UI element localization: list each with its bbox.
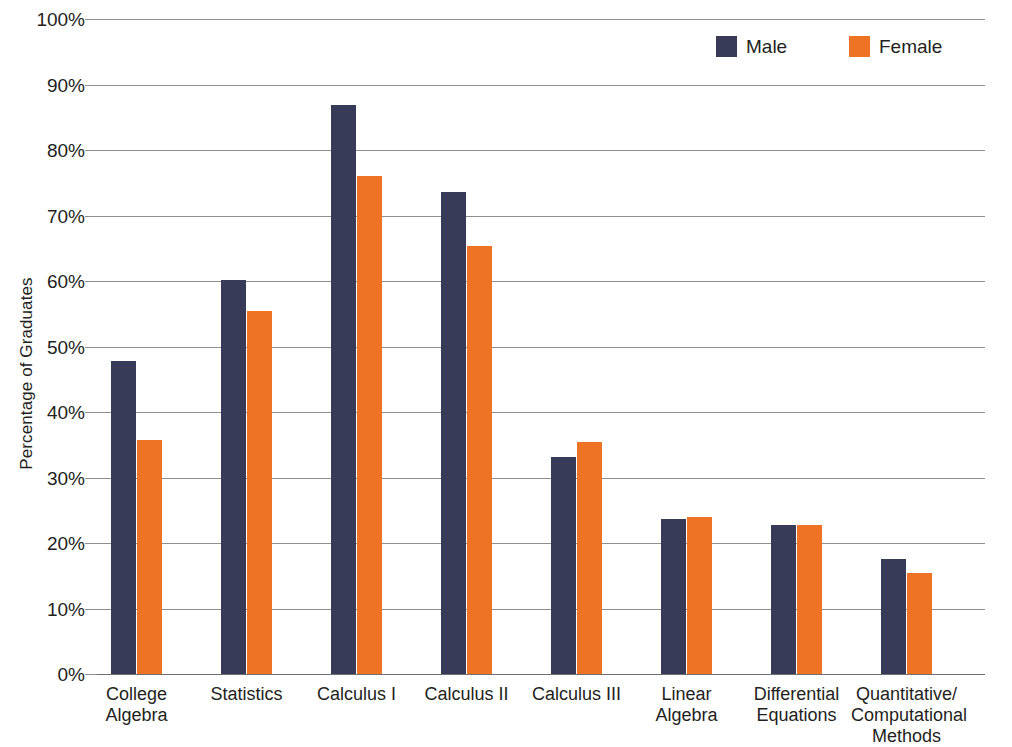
x-axis-label-5: Linear Algebra bbox=[631, 684, 742, 726]
y-axis-tick-label: 0% bbox=[5, 665, 85, 684]
bar-male-0 bbox=[111, 361, 136, 674]
y-axis-tick-label: 40% bbox=[5, 403, 85, 422]
bar-male-5 bbox=[661, 519, 686, 674]
x-axis-label-0: College Algebra bbox=[81, 684, 192, 726]
y-axis-tick-mark bbox=[85, 478, 97, 479]
y-axis-tick-mark bbox=[85, 543, 97, 544]
legend-label-male: Male bbox=[746, 37, 787, 56]
x-axis-label-4: Calculus III bbox=[521, 684, 632, 705]
y-axis-tick-mark bbox=[85, 347, 97, 348]
bar-male-4 bbox=[551, 457, 576, 674]
legend-item-female: Female bbox=[849, 36, 942, 57]
y-axis-tick-mark bbox=[85, 412, 97, 413]
bar-female-3 bbox=[467, 246, 492, 674]
bar-male-2 bbox=[331, 105, 356, 674]
y-axis-tick-label: 60% bbox=[5, 272, 85, 291]
y-axis-tick-label: 50% bbox=[5, 337, 85, 356]
gridline bbox=[97, 674, 985, 675]
y-axis-tick-mark bbox=[85, 150, 97, 151]
y-axis-tick-label: 80% bbox=[5, 141, 85, 160]
y-axis-tick-mark bbox=[85, 85, 97, 86]
bar-female-1 bbox=[247, 311, 272, 674]
x-axis-label-7: Quantitative/ Computational Methods bbox=[851, 684, 962, 747]
gridline bbox=[97, 216, 985, 217]
bar-female-0 bbox=[137, 440, 162, 674]
y-axis-tick-mark bbox=[85, 674, 97, 675]
y-axis-tick-mark bbox=[85, 281, 97, 282]
y-axis-tick-mark bbox=[85, 609, 97, 610]
legend-item-male: Male bbox=[716, 36, 787, 57]
legend-swatch-male-icon bbox=[716, 36, 737, 57]
legend-label-female: Female bbox=[879, 37, 942, 56]
legend-swatch-female-icon bbox=[849, 36, 870, 57]
y-axis-tick-mark bbox=[85, 19, 97, 20]
bar-chart: Percentage of Graduates 100%90%80%70%60%… bbox=[0, 0, 1012, 747]
bar-female-2 bbox=[357, 176, 382, 674]
plot-area: 100%90%80%70%60%50%40%30%20%10%0% bbox=[97, 19, 985, 674]
y-axis-tick-label: 100% bbox=[5, 10, 85, 29]
gridline bbox=[97, 19, 985, 20]
bar-female-4 bbox=[577, 442, 602, 674]
y-axis-tick-mark bbox=[85, 216, 97, 217]
y-axis-tick-label: 20% bbox=[5, 534, 85, 553]
bar-female-5 bbox=[687, 517, 712, 674]
x-axis-label-1: Statistics bbox=[191, 684, 302, 705]
x-axis-label-6: Differential Equations bbox=[741, 684, 852, 726]
gridline bbox=[97, 85, 985, 86]
y-axis-tick-label: 10% bbox=[5, 599, 85, 618]
bar-male-3 bbox=[441, 192, 466, 674]
bar-male-7 bbox=[881, 559, 906, 674]
gridline bbox=[97, 150, 985, 151]
y-axis-tick-label: 90% bbox=[5, 75, 85, 94]
bar-female-7 bbox=[907, 573, 932, 674]
y-axis-tick-label: 70% bbox=[5, 206, 85, 225]
y-axis-title: Percentage of Graduates bbox=[12, 0, 42, 747]
x-axis-label-2: Calculus I bbox=[301, 684, 412, 705]
bar-female-6 bbox=[797, 525, 822, 674]
x-axis-label-3: Calculus II bbox=[411, 684, 522, 705]
y-axis-tick-label: 30% bbox=[5, 468, 85, 487]
bar-male-6 bbox=[771, 525, 796, 674]
bar-male-1 bbox=[221, 280, 246, 674]
